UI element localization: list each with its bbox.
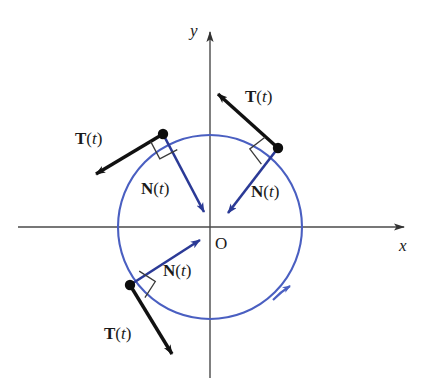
normal-vector-upper-left [163,134,204,212]
normal-symbol: N [141,179,153,198]
normal-label-lower-left: N(t) [163,262,191,279]
tangent-symbol: T [104,324,115,343]
tangent-label-upper-left: T(t) [75,130,102,147]
normal-vector-upper-right [228,148,278,213]
normal-label-upper-left: N(t) [141,180,169,197]
tangent-vector-lower-left [130,285,172,354]
paren-close: ) [274,182,280,201]
tangent-point-upper-left [158,129,168,139]
diagram-canvas [0,0,433,392]
paren-close: ) [97,129,103,148]
paren-close: ) [267,87,273,106]
paren-close: ) [164,179,170,198]
x-axis-label: x [399,237,407,254]
normal-symbol: N [163,261,175,280]
y-axis-label: y [190,22,198,39]
tangent-label-upper-right: T(t) [245,88,272,105]
tangent-symbol: T [75,129,86,148]
tangent-symbol: T [245,87,256,106]
normal-symbol: N [251,182,263,201]
vector-diagram-figure: y x O T(t) T(t) T(t) N(t) N(t) N(t) [0,0,433,392]
tangent-label-lower-left: T(t) [104,325,131,342]
paren-close: ) [186,261,192,280]
origin-label: O [215,235,227,252]
normal-label-upper-right: N(t) [251,183,279,200]
tangent-point-lower-left [125,280,135,290]
paren-close: ) [126,324,132,343]
tangent-point-upper-right [273,143,283,153]
